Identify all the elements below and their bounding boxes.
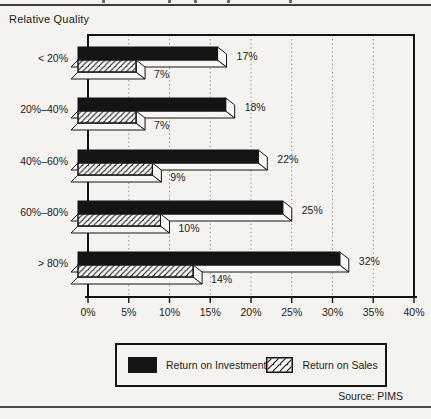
roi-value-label: 32% bbox=[359, 255, 380, 267]
bottom-rule bbox=[0, 406, 431, 408]
solid-black-swatch-icon bbox=[128, 357, 157, 373]
hatched-swatch-icon bbox=[266, 357, 293, 373]
category-label: 20%–40% bbox=[20, 103, 68, 115]
legend-item-ros: Return on Sales bbox=[266, 357, 377, 373]
scanned-chart-page: Relative Quality 0%5%10%15%20%25%30%35%4… bbox=[0, 0, 431, 419]
roi-value-label: 18% bbox=[245, 101, 266, 113]
legend-item-roi: Return on Investment bbox=[128, 357, 266, 373]
roi-bar-face bbox=[78, 98, 226, 111]
category-label: < 20% bbox=[38, 52, 68, 64]
ros-bar-bottom bbox=[71, 123, 145, 130]
roi-bar-face bbox=[78, 252, 340, 265]
x-axis-tick-label: 10% bbox=[159, 306, 180, 318]
ros-bar-bottom bbox=[71, 72, 145, 79]
x-axis-tick-label: 35% bbox=[363, 306, 384, 318]
x-axis-tick-label: 20% bbox=[240, 306, 261, 318]
roi-bar-face bbox=[78, 201, 283, 214]
ros-bar-bottom bbox=[71, 277, 202, 284]
ros-value-label: 7% bbox=[154, 119, 169, 131]
ros-bar-bottom bbox=[71, 226, 170, 233]
ros-bar-hatch bbox=[78, 111, 136, 123]
chart-legend: Return on Investment Return on Sales bbox=[115, 343, 387, 387]
roi-value-label: 17% bbox=[237, 50, 258, 62]
source-note: Source: PIMS bbox=[338, 390, 403, 402]
x-axis-tick-label: 0% bbox=[80, 306, 95, 318]
ros-bar-hatch bbox=[78, 214, 161, 226]
legend-label-ros: Return on Sales bbox=[302, 359, 377, 371]
category-label: 40%–60% bbox=[20, 155, 68, 167]
ros-bar-hatch bbox=[78, 60, 136, 72]
ros-bar-bottom bbox=[71, 175, 161, 182]
roi-value-label: 25% bbox=[302, 204, 323, 216]
roi-bar-face bbox=[78, 47, 218, 60]
ros-value-label: 10% bbox=[179, 222, 200, 234]
ros-bar-hatch bbox=[78, 163, 152, 175]
x-axis-tick-label: 5% bbox=[121, 306, 136, 318]
x-axis-tick-label: 25% bbox=[281, 306, 302, 318]
legend-label-roi: Return on Investment bbox=[166, 359, 266, 371]
x-axis-tick-label: 30% bbox=[322, 306, 343, 318]
ros-bar-hatch bbox=[78, 265, 193, 277]
category-label: 60%–80% bbox=[20, 206, 68, 218]
roi-bar-face bbox=[78, 150, 258, 163]
x-axis-tick-label: 15% bbox=[200, 306, 221, 318]
ros-value-label: 7% bbox=[154, 68, 169, 80]
ros-value-label: 14% bbox=[211, 273, 232, 285]
ros-value-label: 9% bbox=[170, 171, 185, 183]
x-axis-tick-label: 40% bbox=[403, 306, 424, 318]
roi-value-label: 22% bbox=[277, 153, 298, 165]
category-label: > 80% bbox=[38, 257, 68, 269]
